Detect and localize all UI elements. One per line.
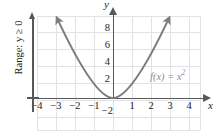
- range-arrow-head-icon: [29, 12, 35, 19]
- function-equation-text: f(x) = x: [150, 71, 182, 82]
- range-arrow-base-tick: [27, 97, 39, 99]
- function-equation-label: f(x) = x2: [150, 68, 185, 82]
- parabola-right-branch: [113, 19, 169, 99]
- range-label: Range: y ≥ 0: [13, 6, 24, 90]
- range-annotation: Range: y ≥ 0: [2, 14, 40, 100]
- function-exponent: 2: [182, 68, 186, 77]
- parabola-left-branch: [57, 19, 113, 99]
- graph-figure: x y −4 −3 −2 −1 1 2 3 4 8 6 4 2 −2 f(x) …: [0, 0, 221, 139]
